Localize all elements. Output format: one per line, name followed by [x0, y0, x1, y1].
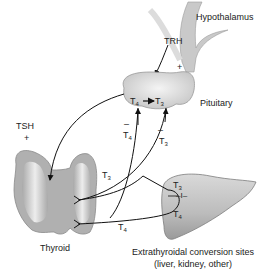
- pituitary-t3-label: T3: [155, 96, 164, 109]
- t3-feedback-sign: –: [158, 125, 163, 135]
- tsh-stimulation-sign: +: [24, 133, 29, 143]
- liver-t4-label: T4: [173, 209, 182, 222]
- pituitary-t4-label: T4: [130, 96, 139, 109]
- deiodinase-label: –I–: [176, 191, 187, 201]
- t3-feedback-label: T3: [159, 136, 168, 149]
- thyroid-gland: [14, 151, 97, 235]
- trh-arrow: [155, 45, 168, 75]
- extrathyroidal-label-line1: Extrathyroidal conversion sites: [120, 247, 266, 257]
- t4-feedback-label: T4: [123, 130, 132, 143]
- tsh-label: TSH: [16, 121, 34, 131]
- diagram-canvas: [0, 0, 266, 279]
- trh-stimulation-sign: +: [177, 62, 182, 72]
- hypothalamus-label: Hypothalamus: [196, 12, 254, 22]
- pituitary-label: Pituitary: [200, 98, 233, 108]
- trh-label: TRH: [164, 36, 183, 46]
- thyroid-label: Thyroid: [40, 243, 70, 253]
- extrathyroidal-label-line2: (liver, kidney, other): [120, 259, 266, 269]
- thyroid-t3-label: T3: [102, 170, 111, 183]
- thyroid-t4-label: T4: [118, 222, 127, 235]
- t4-feedback-sign: –: [124, 119, 129, 129]
